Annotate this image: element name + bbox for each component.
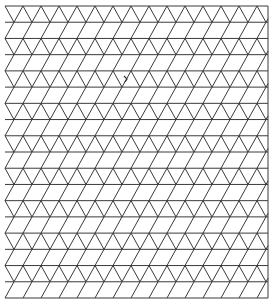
grid-lines [5, 6, 268, 298]
pen-mark [124, 76, 127, 82]
triangular-grid [0, 0, 277, 306]
